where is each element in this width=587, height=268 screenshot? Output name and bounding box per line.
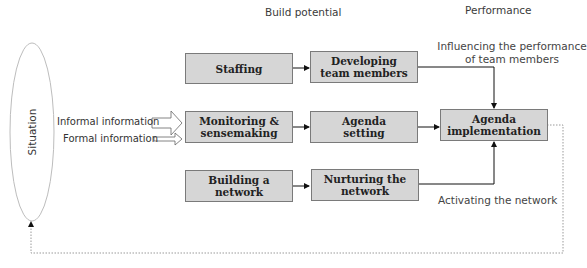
header-build-potential: Build potential bbox=[265, 6, 341, 18]
monitoring-box: Monitoring & sensemaking bbox=[185, 111, 293, 143]
situation-node: Situation bbox=[10, 43, 54, 221]
agenda-setting-box: Agenda setting bbox=[310, 111, 418, 143]
agenda-implementation-box: Agenda implementation bbox=[440, 109, 548, 141]
situation-label: Situation bbox=[26, 109, 38, 156]
informal-information-label: Informal information bbox=[57, 116, 159, 127]
influencing-note: Influencing the performance of team memb… bbox=[437, 40, 587, 66]
formal-information-label: Formal information bbox=[63, 133, 158, 144]
developing-box: Developing team members bbox=[310, 51, 418, 83]
nurturing-box: Nurturing the network bbox=[311, 169, 419, 201]
building-network-box: Building a network bbox=[185, 170, 293, 202]
activating-note: Activating the network bbox=[438, 194, 557, 207]
staffing-box: Staffing bbox=[185, 53, 293, 84]
formal-arrow-icon bbox=[154, 133, 182, 145]
feedback-loop bbox=[31, 125, 563, 253]
header-performance: Performance bbox=[465, 4, 532, 16]
